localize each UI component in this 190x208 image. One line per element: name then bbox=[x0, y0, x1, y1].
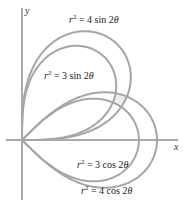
y-axis-label: y bbox=[25, 5, 29, 16]
polar-curves-figure: y x r2 = 4 sin 2θ r2 = 3 sin 2θ r2 = 3 c… bbox=[0, 0, 190, 208]
label-4sin2theta: r2 = 4 sin 2θ bbox=[69, 13, 119, 25]
label-4cos2theta: r2 = 4 cos 2θ bbox=[81, 184, 132, 196]
x-axis-label: x bbox=[174, 141, 178, 152]
label-3sin2theta: r2 = 3 sin 2θ bbox=[44, 69, 94, 81]
label-3cos2theta: r2 = 3 cos 2θ bbox=[77, 158, 128, 170]
plot-canvas bbox=[0, 0, 190, 208]
